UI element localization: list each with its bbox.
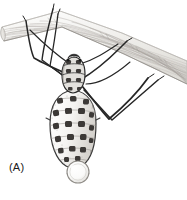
eye-left (67, 59, 70, 62)
insect-on-twig-illustration (0, 0, 187, 200)
honeydew-droplet-group (67, 161, 89, 183)
panel-label: (A) (9, 162, 24, 173)
figure-panel: (A) (0, 0, 187, 200)
droplet-highlight (71, 165, 77, 169)
honeydew-droplet (67, 161, 89, 183)
eye-right (79, 59, 82, 62)
